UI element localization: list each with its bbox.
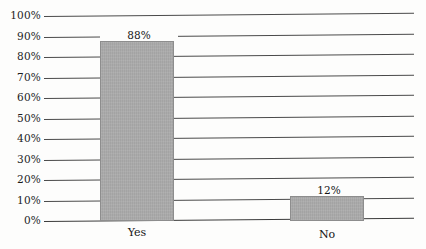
y-tick-label: 0% [0, 214, 41, 226]
bar-value-yes: 88% [100, 29, 178, 41]
y-tick-label: 10% [0, 194, 41, 206]
y-tick-label: 20% [0, 173, 41, 185]
bar-no[interactable] [290, 196, 364, 221]
y-tick-label: 40% [0, 132, 41, 144]
y-tick-label: 50% [0, 112, 41, 124]
bar-yes[interactable] [100, 41, 174, 221]
bar-value-no: 12% [290, 184, 368, 196]
gridline-100 [44, 13, 414, 17]
y-tick-label: 90% [0, 30, 41, 42]
y-tick-label: 60% [0, 91, 41, 103]
y-tick-label: 100% [0, 9, 41, 21]
y-tick-label: 70% [0, 71, 41, 83]
x-tick-label-yes: Yes [100, 226, 174, 239]
x-tick-label-no: No [290, 228, 364, 241]
y-tick-label: 80% [0, 50, 41, 62]
bar-chart: 100% 90% 80% 70% 60% 50% 40% 30% [0, 0, 426, 249]
y-tick-label: 30% [0, 153, 41, 165]
